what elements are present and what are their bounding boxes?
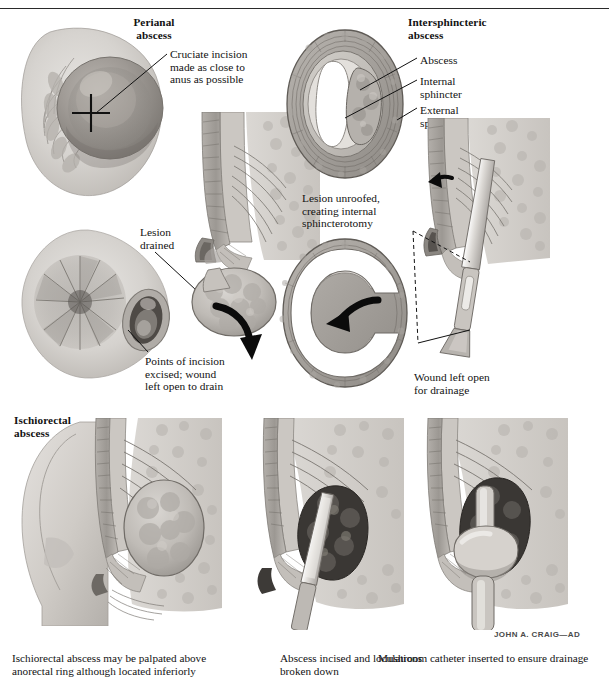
caption-ischiorectal-palpated: Ischiorectal abscess may be palpated abo…	[12, 652, 302, 678]
figure-ischiorectal-panel-c	[396, 418, 576, 630]
caption-wound-left-open: Wound left open for drainage	[414, 371, 544, 396]
cruciate-incision-cross-icon	[70, 92, 112, 134]
artist-signature: JOHN A. CRAIG—AD	[494, 630, 580, 638]
figure-ischiorectal-panel-b	[232, 418, 412, 630]
callout-cruciate-incision: Cruciate incision made as close to anus …	[170, 48, 290, 86]
heading-intersphincteric-abscess: Intersphincteric abscess	[408, 16, 538, 42]
heading-perianal-abscess: Perianal abscess	[104, 16, 204, 42]
figure-sagittal-scalpel-intersphincteric	[422, 118, 550, 368]
header-rule	[0, 8, 609, 9]
illustration-plate: Perianal abscess Cruciate incision made …	[0, 0, 609, 689]
caption-mushroom-catheter: Mushroom catheter inserted to ensure dra…	[378, 652, 609, 665]
label-internal-sphincter: Internal sphincter	[420, 75, 530, 100]
figure-ischiorectal-panel-a	[12, 418, 222, 626]
sphincterotomy-arrow	[322, 294, 384, 336]
cut-off-title	[80, 0, 380, 8]
label-abscess: Abscess	[420, 54, 530, 67]
figure-intersphincteric-crosssection	[285, 28, 405, 180]
drainage-arrow-perianal	[210, 300, 270, 362]
caption-lesion-unroofed: Lesion unroofed, creating internal sphin…	[302, 192, 442, 230]
